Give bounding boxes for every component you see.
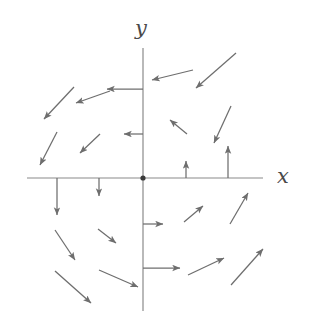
field-arrow <box>76 91 110 103</box>
field-arrow <box>80 134 100 153</box>
field-arrow <box>188 258 224 275</box>
y-axis-label: y <box>135 18 147 39</box>
field-arrow <box>98 229 116 243</box>
field-arrow <box>152 70 193 80</box>
field-arrow <box>55 230 75 260</box>
field-arrow <box>214 106 231 143</box>
field-arrow <box>230 193 248 224</box>
field-arrow <box>44 87 74 119</box>
origin-point <box>140 175 145 180</box>
field-arrow <box>40 132 57 165</box>
field-arrow <box>55 271 91 303</box>
vector-field-plot <box>0 0 309 329</box>
axes-group <box>27 48 263 311</box>
field-arrow <box>231 249 263 285</box>
field-arrow <box>99 270 138 287</box>
field-arrow <box>184 206 203 222</box>
field-arrow <box>196 53 236 88</box>
vector-field-figure: y x <box>0 0 309 329</box>
x-axis-label: x <box>277 166 289 187</box>
field-arrow <box>170 120 187 134</box>
